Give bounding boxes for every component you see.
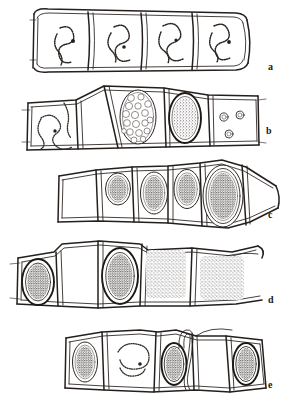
panel-e-illustration	[65, 329, 266, 392]
panel-label-b: b	[266, 126, 272, 136]
panel-label-e: e	[268, 380, 272, 390]
panel-a-illustration	[30, 9, 250, 72]
panel-label-d: d	[268, 295, 274, 305]
figure-root: a b c d e	[0, 0, 292, 408]
panel-d-illustration	[10, 241, 263, 308]
figure-illustration	[0, 0, 292, 408]
panel-label-c: c	[268, 210, 272, 220]
panel-b-illustration	[22, 86, 266, 150]
panel-c-illustration	[58, 160, 279, 228]
panel-label-a: a	[268, 62, 273, 72]
